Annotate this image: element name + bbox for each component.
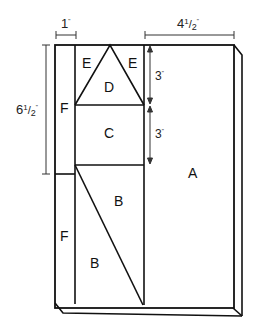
dimension-4-5in [145, 31, 234, 39]
dimension-label-6-5in: 61/2" [16, 102, 38, 118]
piece-label-b-lower: B [90, 255, 99, 271]
dimension-label-1in: 1" [61, 16, 70, 31]
dimension-label-4-5in: 41/2" [177, 16, 199, 32]
dimension-label-3in-lower: 3" [155, 127, 164, 141]
dimension-3in-lower [148, 106, 153, 164]
piece-label-c: C [104, 125, 114, 141]
piece-label-f-lower: F [60, 228, 69, 244]
dimension-label-3in-upper: 3" [155, 69, 164, 83]
piece-label-b-upper: B [114, 193, 123, 209]
dimension-3in-upper [148, 46, 153, 104]
piece-lines [55, 45, 144, 305]
dimension-1in [56, 31, 76, 39]
dimension-6-5in [42, 45, 50, 174]
piece-label-d: D [104, 79, 114, 95]
piece-label-e-right: E [128, 55, 137, 71]
piece-label-a: A [188, 165, 198, 181]
piece-label-e-left: E [82, 55, 91, 71]
piece-label-f-upper: F [60, 100, 69, 116]
quilt-cutting-diagram: 1" 41/2" 61/2" 3" 3" E E D F C A B F [0, 0, 258, 329]
